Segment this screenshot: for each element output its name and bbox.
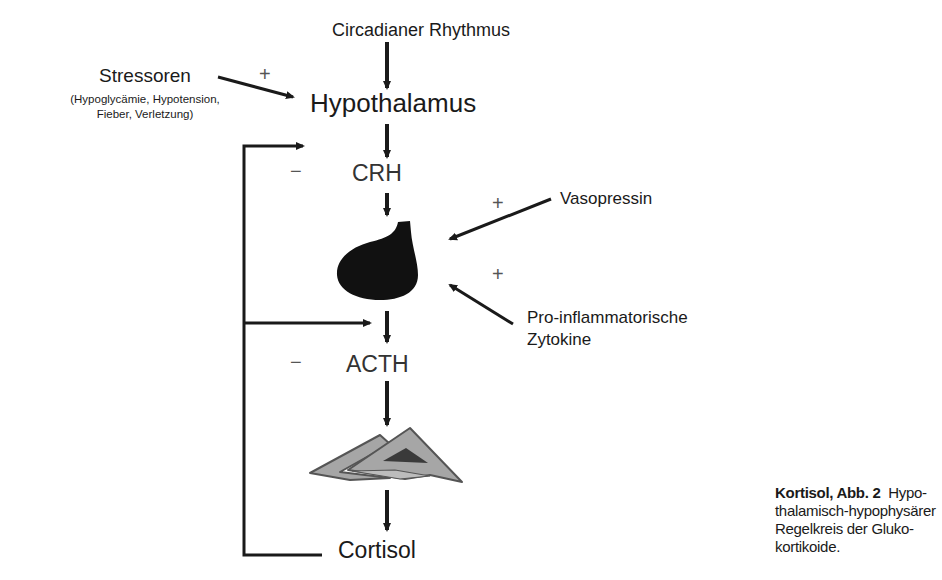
pituitary-gland-icon <box>337 221 418 300</box>
node-hypothalamus: Hypothalamus <box>310 88 476 119</box>
node-stressors-detail: (Hypoglycämie, Hypotension, Fieber, Verl… <box>40 92 250 122</box>
stressors-detail-line2: Fieber, Verletzung) <box>97 108 194 120</box>
sign-plus-stressors: + <box>259 63 271 86</box>
sign-plus-cytokines: + <box>492 263 504 286</box>
node-vasopressin: Vasopressin <box>560 189 652 209</box>
caption-bold: Kortisol, Abb. 2 <box>775 484 880 501</box>
cytokines-line1: Pro-inflammatorische <box>527 308 688 327</box>
node-cytokines: Pro-inflammatorische Zytokine <box>527 307 688 351</box>
node-crh: CRH <box>352 160 402 187</box>
node-stressors: Stressoren <box>60 65 230 87</box>
adrenal-gland-icon <box>310 428 462 482</box>
node-acth: ACTH <box>346 351 409 378</box>
sign-plus-vasopressin: + <box>492 192 504 215</box>
figure-caption: Kortisol, Abb. 2 Hypo­thalamisch-hypophy… <box>775 484 942 556</box>
arrow-cytokines-pituitary <box>450 285 513 324</box>
feedback-line-cortisol <box>244 146 322 555</box>
node-cortisol: Cortisol <box>338 537 416 564</box>
sign-minus-acth: − <box>290 351 302 374</box>
stressors-detail-line1: (Hypoglycämie, Hypotension, <box>70 93 220 105</box>
sign-minus-crh: − <box>290 160 302 183</box>
node-circadian-rhythm: Circadianer Rhythmus <box>0 20 842 41</box>
cytokines-line2: Zytokine <box>527 330 591 349</box>
